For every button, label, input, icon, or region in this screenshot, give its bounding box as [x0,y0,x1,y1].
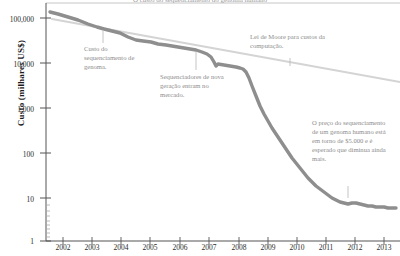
y-tick-100: 100 [0,151,34,159]
x-tick-2011: 2011 [319,243,334,252]
x-tick-2012: 2012 [348,243,363,252]
genome-sequencing-cost-chart: O custo do sequenciamento do genoma huma… [0,0,400,256]
y-tick-1000: 1,000 [0,106,34,114]
y-tick-100000: 100,000 [0,16,34,24]
annotation-current-price: O preço do sequenciamento de um genoma h… [312,118,388,163]
y-tick-10: 10 [0,196,34,204]
sequencing-cost-line [50,12,396,208]
annotation-next-gen-sequencers: Sequenciadores de nova geração entram no… [160,72,230,99]
x-tick-2008: 2008 [232,243,247,252]
y-axis-tick-labels: 100,000 10,000 1,000 100 10 1 [0,0,34,256]
x-tick-2007: 2007 [202,243,217,252]
chart-title: O custo do sequenciamento do genoma huma… [0,0,400,4]
x-tick-2006: 2006 [173,243,188,252]
x-axis-tick-labels: 2002 2003 2004 2005 2006 2007 2008 2009 … [0,243,400,256]
y-tick-10000: 10,000 [0,61,34,69]
x-tick-2002: 2002 [56,243,71,252]
x-tick-2013: 2013 [377,243,392,252]
x-tick-2003: 2003 [85,243,100,252]
x-tick-2005: 2005 [143,243,158,252]
x-tick-2004: 2004 [114,243,129,252]
annotation-genome-cost: Custo do sequenciamento de genoma. [84,44,146,71]
x-tick-2010: 2010 [290,243,305,252]
y-axis-minor-ticks [46,205,50,237]
x-tick-2009: 2009 [261,243,276,252]
annotation-moores-law: Lei de Moore para custos da computação. [250,32,332,50]
